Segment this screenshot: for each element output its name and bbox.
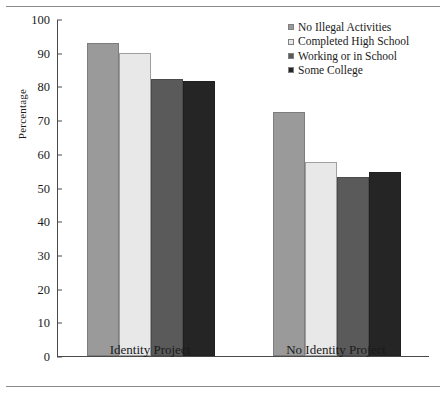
- y-axis-tick-label: 10: [0, 317, 57, 330]
- y-axis-tick-label: 80: [0, 81, 57, 94]
- legend-item-label: Working or in School: [298, 49, 397, 63]
- y-axis-tick-mark: [57, 53, 62, 54]
- y-axis-tick-label: 60: [0, 149, 57, 162]
- y-axis-tick-mark: [57, 154, 62, 155]
- y-axis-tick-label: 100: [0, 14, 57, 27]
- legend-item-label: Some College: [298, 63, 363, 77]
- y-axis-tick-label: 30: [0, 250, 57, 263]
- legend-color-swatch: [288, 39, 294, 45]
- y-axis-tick-label: 70: [0, 115, 57, 128]
- bar: [119, 53, 151, 356]
- legend-item: No Illegal Activities: [288, 20, 409, 34]
- y-axis-tick-mark: [57, 222, 62, 223]
- y-axis-tick-mark: [57, 188, 62, 189]
- bar: [183, 81, 215, 356]
- y-axis-tick-label: 20: [0, 283, 57, 296]
- y-axis-tick-mark: [57, 255, 62, 256]
- y-axis-tick-mark: [57, 87, 62, 88]
- legend-item: Some College: [288, 63, 409, 77]
- legend-color-swatch: [288, 53, 294, 59]
- x-axis-category-label: Identity Project: [110, 342, 191, 358]
- x-axis-category-label: No Identity Project: [286, 342, 386, 358]
- bar: [273, 112, 305, 356]
- y-axis-tick-mark: [57, 121, 62, 122]
- chart-legend: No Illegal ActivitiesCompleted High Scho…: [288, 20, 409, 78]
- y-axis-tick-label: 0: [0, 351, 57, 364]
- legend-color-swatch: [288, 67, 294, 73]
- y-axis-tick-mark: [57, 357, 62, 358]
- y-axis-tick-mark: [57, 323, 62, 324]
- legend-item: Completed High School: [288, 34, 409, 48]
- bar: [305, 162, 337, 356]
- y-axis-tick-label: 50: [0, 182, 57, 195]
- legend-color-swatch: [288, 24, 294, 30]
- y-axis-tick-mark: [57, 289, 62, 290]
- bar: [151, 79, 183, 356]
- legend-item: Working or in School: [288, 49, 409, 63]
- grouped-bar-chart: Percentage 0102030405060708090100 Identi…: [0, 0, 444, 393]
- y-axis-tick-mark: [57, 20, 62, 21]
- legend-item-label: No Illegal Activities: [298, 20, 391, 34]
- bar: [337, 177, 369, 356]
- bar: [87, 43, 119, 356]
- y-axis-tick-label: 40: [0, 216, 57, 229]
- y-axis-tick-label: 90: [0, 47, 57, 60]
- bar: [369, 172, 401, 356]
- legend-item-label: Completed High School: [298, 34, 409, 48]
